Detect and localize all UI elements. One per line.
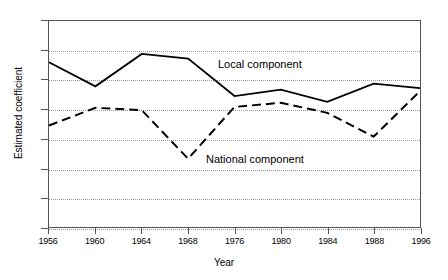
series-lines (49, 21, 420, 227)
x-axis-label: Year (0, 258, 448, 268)
x-tick-mark (374, 228, 375, 234)
annotation-local-component: Local component (218, 59, 302, 70)
x-tick-label: 1960 (85, 237, 104, 246)
x-tick-label: 1968 (178, 237, 197, 246)
x-tick-label: 1988 (365, 237, 384, 246)
y-tick-mark (41, 139, 48, 140)
y-tick-mark (41, 169, 48, 170)
y-tick-mark (41, 109, 48, 110)
series-line-national-component (49, 91, 420, 159)
x-tick-label: 1976 (225, 237, 244, 246)
x-tick-label: 1984 (318, 237, 337, 246)
x-tick-label: 1996 (411, 237, 430, 246)
x-tick-mark (328, 228, 329, 234)
y-tick-mark (41, 50, 48, 51)
annotation-national-component: National component (206, 154, 304, 165)
x-tick-label: 1980 (272, 237, 291, 246)
chart-figure: Estimated coefficient 00.10.20.30.40.50.… (0, 0, 448, 280)
x-tick-mark (141, 228, 142, 234)
x-tick-mark (95, 228, 96, 234)
x-tick-mark (188, 228, 189, 234)
y-tick-mark (41, 79, 48, 80)
x-tick-label: 1956 (38, 237, 57, 246)
x-tick-mark (48, 228, 49, 234)
y-tick-mark (41, 20, 48, 21)
plot-area (48, 20, 421, 228)
x-tick-mark (421, 228, 422, 234)
x-tick-label: 1964 (132, 237, 151, 246)
y-tick-mark (41, 198, 48, 199)
y-axis-label: Estimated coefficient (14, 38, 24, 188)
x-tick-mark (281, 228, 282, 234)
x-tick-mark (235, 228, 236, 234)
y-tick-mark (41, 228, 48, 229)
